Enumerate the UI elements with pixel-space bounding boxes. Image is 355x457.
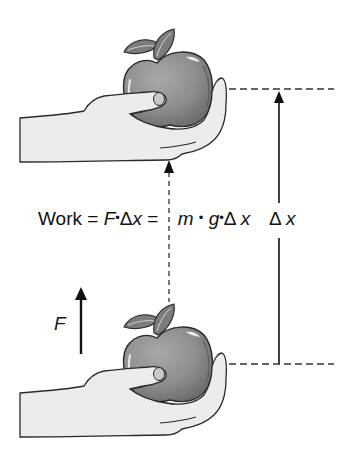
hand-holding-apple-top [20,29,226,162]
equals-sign-1: = [87,208,98,229]
x-symbol-1: x [133,208,143,229]
displacement-label: Δ x [269,208,295,230]
force-symbol: F [104,208,116,229]
force-label: F [54,313,66,335]
x-symbol-2: x [241,208,251,229]
hand-holding-apple-bottom [20,304,226,437]
delta-symbol-1: Δ [120,208,133,229]
displacement-delta: Δ [269,208,281,229]
motion-path-arrowhead-icon [164,160,174,173]
displacement-arrowhead-icon [274,91,284,103]
multiply-dot-2: • [199,210,204,225]
delta-symbol-2: Δ [224,208,236,229]
work-label: Work [38,208,82,229]
force-arrowhead-icon [75,287,87,300]
gravity-symbol: g [209,208,220,229]
force-label-text: F [54,313,66,334]
work-equation: Work = F•Δx = m • g•Δ x [38,208,250,230]
displacement-x: x [286,208,296,229]
equals-sign-2: = [147,208,158,229]
mass-symbol: m [178,208,194,229]
